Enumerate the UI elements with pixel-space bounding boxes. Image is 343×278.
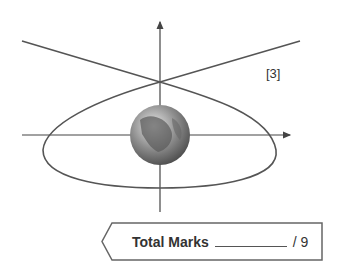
total-marks-box: Total Marks/ 9	[100, 222, 324, 262]
earth-globe-icon	[130, 105, 190, 165]
total-marks-blank[interactable]	[215, 236, 287, 247]
total-marks-suffix: / 9	[293, 234, 309, 250]
total-marks-label: Total Marks	[132, 234, 209, 250]
total-marks-text: Total Marks/ 9	[132, 234, 308, 250]
question-marks: [3]	[266, 66, 280, 81]
orbit-diagram	[0, 0, 343, 222]
